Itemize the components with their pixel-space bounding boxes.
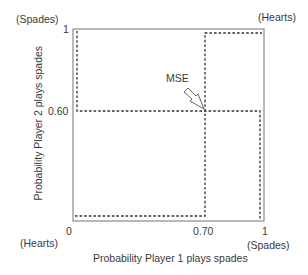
mse-arrow-icon xyxy=(184,88,204,109)
x-tick-0.70: 0.70 xyxy=(193,226,213,237)
label-hearts-bottom: (Hearts) xyxy=(20,238,58,249)
x-axis-label: Probability Player 1 plays spades xyxy=(93,253,248,264)
player1-best-response-line xyxy=(75,33,262,216)
label-spades-bottom: (Spades) xyxy=(247,240,290,251)
x-tick-1: 1 xyxy=(262,226,268,237)
label-spades-top: (Spades) xyxy=(16,14,59,25)
y-axis-label: Probability Player 2 plays spades xyxy=(33,37,44,209)
x-tick-0: 0 xyxy=(66,226,72,237)
plot-frame xyxy=(73,29,264,221)
player2-best-response-line xyxy=(77,31,260,219)
y-tick-0.60: 0.60 xyxy=(48,106,68,117)
label-hearts-top: (Hearts) xyxy=(258,12,296,23)
y-tick-1: 1 xyxy=(63,24,69,35)
mse-label: MSE xyxy=(166,73,189,84)
